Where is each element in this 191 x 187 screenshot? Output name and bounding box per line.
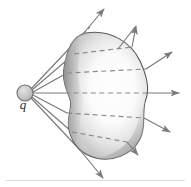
- ray-3-entry-segment: [33, 73, 67, 92]
- ray-5-exit-segment: [144, 118, 170, 132]
- ray-6-entry-segment: [32, 97, 72, 132]
- ray-5-entry-segment: [33, 95, 67, 113]
- physics-diagram-gauss-law: q: [0, 0, 191, 187]
- ray-3-exit-segment: [146, 52, 172, 69]
- ray-1-exit-segment: [82, 9, 104, 35]
- diagram-canvas: [0, 0, 191, 187]
- gaussian-surface-group: [63, 32, 147, 159]
- charge-label: q: [14, 98, 32, 112]
